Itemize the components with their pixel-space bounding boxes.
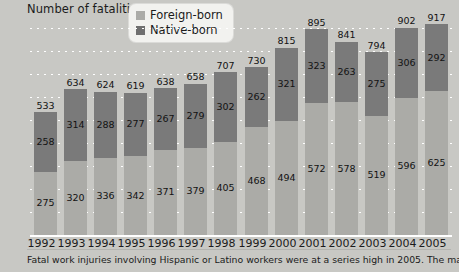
bar-value-native-born-1996: 267 xyxy=(154,114,177,124)
bar-total-2001: 895 xyxy=(299,18,334,28)
bar-total-1998: 707 xyxy=(208,61,243,71)
bar-group-1997: 279658379 xyxy=(184,84,207,235)
bar-segment-native-born-2000: 321815 xyxy=(275,48,298,122)
bar-segment-foreign-born-1993: 320 xyxy=(64,161,87,235)
bar-total-1999: 730 xyxy=(239,56,274,66)
footnote-area: Fatal work injuries involving Hispanic o… xyxy=(0,248,458,272)
bar-value-native-born-1993: 314 xyxy=(64,120,87,130)
footnote-text: Fatal work injuries involving Hispanic o… xyxy=(27,254,459,265)
bar-group-2003: 275794519 xyxy=(365,52,388,235)
bar-segment-foreign-born-1994: 336 xyxy=(94,158,117,235)
bar-group-2005: 292917625 xyxy=(425,24,448,235)
bar-total-1992: 533 xyxy=(28,101,63,111)
bar-value-native-born-1998: 302 xyxy=(214,102,237,112)
bar-value-native-born-2005: 292 xyxy=(425,53,448,63)
bar-segment-foreign-born-1995: 342 xyxy=(124,156,147,235)
bar-value-foreign-born-1998: 405 xyxy=(214,183,237,193)
gridline-800 xyxy=(30,51,452,52)
bar-group-1993: 314634320 xyxy=(64,89,87,235)
bar-segment-native-born-2004: 306902 xyxy=(395,28,418,98)
bar-value-foreign-born-2005: 625 xyxy=(425,158,448,168)
bar-segment-foreign-born-1998: 405 xyxy=(214,142,237,235)
bar-segment-foreign-born-2003: 519 xyxy=(365,116,388,235)
bar-segment-native-born-1996: 267638 xyxy=(154,88,177,149)
bar-value-native-born-2000: 321 xyxy=(275,79,298,89)
bar-value-native-born-1994: 288 xyxy=(94,120,117,130)
bar-value-native-born-2002: 263 xyxy=(335,67,358,77)
bar-value-foreign-born-2001: 572 xyxy=(305,164,328,174)
chart-title: Number of fatalities xyxy=(27,2,143,16)
bar-group-1992: 258533275 xyxy=(34,112,57,235)
gridline-700 xyxy=(30,74,452,75)
bar-value-foreign-born-2004: 596 xyxy=(395,161,418,171)
bar-segment-native-born-2005: 292917 xyxy=(425,24,448,91)
bar-segment-foreign-born-1997: 379 xyxy=(184,148,207,235)
legend-swatch-foreign-born-icon xyxy=(136,11,145,20)
bar-value-foreign-born-1993: 320 xyxy=(64,193,87,203)
bar-group-1996: 267638371 xyxy=(154,88,177,235)
bar-value-foreign-born-1992: 275 xyxy=(34,198,57,208)
bar-value-foreign-born-1994: 336 xyxy=(94,191,117,201)
bar-value-foreign-born-1996: 371 xyxy=(154,187,177,197)
bar-total-2003: 794 xyxy=(359,41,394,51)
bar-value-native-born-1997: 279 xyxy=(184,111,207,121)
bar-segment-foreign-born-2001: 572 xyxy=(305,103,328,235)
chart-panel: Number of fatalities Foreign-born Native… xyxy=(0,0,458,248)
bar-value-foreign-born-1999: 468 xyxy=(245,176,268,186)
bar-total-2005: 917 xyxy=(419,13,454,23)
bar-segment-native-born-1994: 288624 xyxy=(94,92,117,158)
bar-segment-foreign-born-1992: 275 xyxy=(34,172,57,235)
bar-segment-native-born-1998: 302707 xyxy=(214,72,237,141)
bar-value-native-born-2004: 306 xyxy=(395,58,418,68)
bar-segment-native-born-1992: 258533 xyxy=(34,112,57,171)
bar-value-foreign-born-2003: 519 xyxy=(365,170,388,180)
bar-segment-foreign-born-2004: 596 xyxy=(395,98,418,235)
bar-value-native-born-2003: 275 xyxy=(365,79,388,89)
bar-segment-foreign-born-2002: 578 xyxy=(335,102,358,235)
bar-value-native-born-1992: 258 xyxy=(34,137,57,147)
bar-value-foreign-born-1995: 342 xyxy=(124,191,147,201)
bar-segment-native-born-1995: 277619 xyxy=(124,93,147,157)
bar-group-1994: 288624336 xyxy=(94,92,117,236)
bar-group-2002: 263841578 xyxy=(335,42,358,235)
bar-segment-native-born-2003: 275794 xyxy=(365,52,388,115)
bar-group-1999: 262730468 xyxy=(245,67,268,235)
bar-group-2000: 321815494 xyxy=(275,48,298,235)
bar-group-1998: 302707405 xyxy=(214,72,237,235)
bar-group-2004: 306902596 xyxy=(395,28,418,235)
bar-value-foreign-born-2000: 494 xyxy=(275,173,298,183)
bar-segment-foreign-born-2000: 494 xyxy=(275,121,298,235)
legend-label-foreign-born: Foreign-born xyxy=(150,10,223,22)
plot-area: 2585332753146343202886243362776193422676… xyxy=(30,28,452,236)
bar-total-2000: 815 xyxy=(269,36,304,46)
bar-value-native-born-2001: 323 xyxy=(305,61,328,71)
bar-value-native-born-1999: 262 xyxy=(245,92,268,102)
legend-item-foreign-born: Foreign-born xyxy=(136,8,223,23)
bar-segment-native-born-2001: 323895 xyxy=(305,29,328,103)
bar-group-2001: 323895572 xyxy=(305,29,328,235)
bar-total-2002: 841 xyxy=(329,30,364,40)
bar-segment-foreign-born-2005: 625 xyxy=(425,91,448,235)
bar-segment-native-born-2002: 263841 xyxy=(335,42,358,102)
footnote-divider xyxy=(27,249,451,250)
bar-total-1997: 658 xyxy=(178,72,213,82)
bar-value-native-born-1995: 277 xyxy=(124,119,147,129)
bar-value-foreign-born-1997: 379 xyxy=(184,186,207,196)
bar-segment-native-born-1997: 279658 xyxy=(184,84,207,148)
bar-segment-foreign-born-1996: 371 xyxy=(154,150,177,235)
bar-segment-native-born-1999: 262730 xyxy=(245,67,268,127)
bar-value-foreign-born-2002: 578 xyxy=(335,164,358,174)
bar-group-1995: 277619342 xyxy=(124,93,147,235)
bar-segment-foreign-born-1999: 468 xyxy=(245,127,268,235)
bar-segment-native-born-1993: 314634 xyxy=(64,89,87,161)
gridline-900 xyxy=(30,28,452,29)
